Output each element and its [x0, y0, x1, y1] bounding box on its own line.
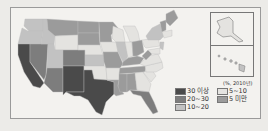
state-arizona — [44, 68, 63, 92]
legend-item-10-20: 10~20 — [175, 104, 209, 112]
state-wisconsin — [112, 26, 125, 42]
alaska-inset — [210, 12, 254, 47]
state-michigan — [123, 26, 140, 42]
legend-swatch — [175, 96, 186, 103]
state-wyoming — [55, 35, 78, 50]
state-north-dakota — [78, 21, 99, 33]
state-maine — [166, 10, 178, 26]
legend-swatch — [175, 88, 186, 95]
hawaii-inset — [210, 45, 254, 77]
state-ohio — [132, 40, 144, 56]
state-florida — [130, 90, 158, 114]
legend-swatch — [217, 96, 228, 103]
state-new-jersey — [160, 42, 164, 50]
state-south-dakota — [78, 33, 100, 45]
state-arkansas — [106, 68, 120, 80]
legend-swatch — [175, 104, 186, 111]
legend-item-under5: 5 미만 — [217, 96, 247, 104]
state-washington — [24, 19, 43, 31]
legend-swatch — [217, 88, 228, 95]
state-mississippi — [118, 74, 127, 92]
state-colorado — [63, 50, 85, 66]
state-new-mexico — [63, 66, 84, 95]
state-iowa — [100, 42, 118, 52]
state-kansas — [85, 55, 104, 66]
